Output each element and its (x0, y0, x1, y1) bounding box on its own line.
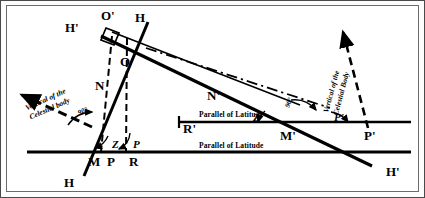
label-ninety-left: 90° (77, 105, 89, 116)
label-n-left: N (95, 78, 105, 93)
label-o-inner: O (120, 54, 130, 69)
diagram-canvas: H' O' H O N N' M P R R' H Z P Z' P' M' P… (0, 0, 425, 198)
dashed-vertical-op (101, 36, 112, 152)
annotation-vertical-right: Vertical of the Celestial Body (321, 68, 351, 116)
diagram-page: H' O' H O N N' M P R R' H Z P Z' P' M' P… (0, 0, 425, 198)
label-r-prime: R' (183, 121, 196, 136)
label-n-prime-right: N' (207, 88, 220, 103)
label-o-prime-top: O' (101, 8, 115, 23)
angle-arc-p-left (119, 133, 130, 149)
label-z-left: Z (111, 138, 119, 150)
label-p-angle-left: P (133, 138, 140, 150)
label-p-prime-right: P' (364, 128, 376, 143)
label-h-prime-bottom-right: H' (386, 164, 400, 179)
label-parallel-of-latitude-lower: Parallel of Latitude (199, 141, 264, 150)
label-h-bottom-left: H (64, 175, 74, 190)
dash-dot-celestial-trace (146, 48, 330, 108)
label-m-left: M (88, 154, 100, 169)
label-ninety-right: 90° (283, 96, 294, 108)
label-m-prime-right: M' (280, 128, 296, 143)
label-r-left: R (129, 154, 139, 169)
chord-line-upper (112, 32, 300, 105)
label-p-left: P (107, 154, 115, 169)
label-h-prime-top-left: H' (65, 20, 79, 35)
label-h-top-right: H (135, 10, 145, 25)
label-parallel-of-latitude-upper: Parallel of Latitude (199, 110, 264, 119)
